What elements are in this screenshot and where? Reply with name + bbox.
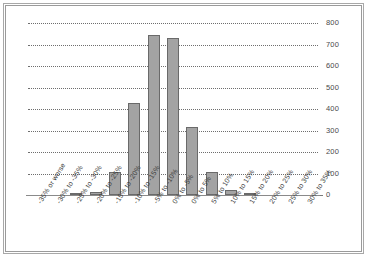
y-axis-tick-label: 800 (326, 19, 339, 27)
gridline (28, 23, 318, 24)
y-axis-tick-label: 0 (326, 191, 330, 199)
y-axis-tick-label: 500 (326, 84, 339, 92)
y-axis-tick-label: 700 (326, 41, 339, 49)
y-axis-tick-label: 600 (326, 62, 339, 70)
y-axis-tick-label: 200 (326, 148, 339, 156)
bar-chart: 8007006005004003002001000 -35% or worse-… (0, 0, 371, 261)
y-axis-tick-label: 400 (326, 105, 339, 113)
y-axis-tick-label: 300 (326, 127, 339, 135)
